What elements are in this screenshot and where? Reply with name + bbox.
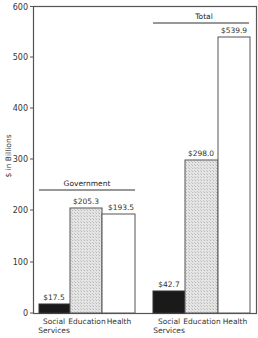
bar-chart: 0 100 200 300 400 500 600 $ in Billions …	[0, 0, 258, 338]
value-label: $539.9	[221, 26, 247, 35]
bar-gov-education	[70, 208, 102, 313]
group-title: Government	[64, 179, 111, 188]
x-label: Social	[43, 317, 65, 326]
x-label: Education	[183, 317, 221, 326]
x-label: Social	[158, 317, 180, 326]
bar-gov-health	[102, 214, 135, 313]
group-government: Government $17.5 $205.3 $193.5 Social Se…	[38, 179, 135, 335]
bar-gov-social-services	[39, 304, 70, 313]
x-label: Health	[107, 317, 132, 326]
value-label: $42.7	[158, 280, 180, 289]
x-label: Education	[68, 317, 106, 326]
y-tick-400: 400	[13, 104, 28, 113]
y-axis-label: $ in Billions	[4, 134, 13, 177]
value-label: $298.0	[188, 149, 214, 158]
y-axis: 0 100 200 300 400 500 600 $ in Billions	[4, 3, 34, 319]
y-tick-0: 0	[23, 309, 28, 318]
value-label: $205.3	[73, 197, 99, 206]
bar-total-education	[185, 160, 218, 313]
x-label: Health	[223, 317, 248, 326]
y-tick-500: 500	[13, 53, 28, 62]
group-total: Total $42.7 $298.0 $539.9 Social Service…	[153, 12, 250, 335]
bar-total-health	[218, 37, 250, 313]
group-title: Total	[194, 12, 213, 21]
y-tick-300: 300	[13, 155, 28, 164]
x-label: Services	[153, 326, 185, 335]
bar-total-social-services	[153, 291, 185, 313]
y-tick-600: 600	[13, 3, 28, 12]
y-tick-200: 200	[13, 206, 28, 215]
y-tick-100: 100	[13, 258, 28, 267]
value-label: $193.5	[108, 203, 134, 212]
x-label: Services	[38, 326, 70, 335]
value-label: $17.5	[43, 293, 65, 302]
